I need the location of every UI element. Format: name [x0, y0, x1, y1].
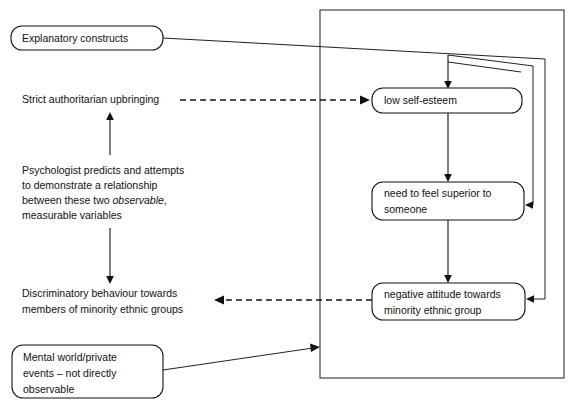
- psychology-explanatory-constructs-diagram: Explanatory constructs Strict authoritar…: [0, 0, 580, 409]
- arrowhead-need-superior-top: [444, 174, 452, 182]
- arrowhead-low-self-esteem-left: [360, 96, 370, 105]
- label-discriminatory-line-2: members of minority ethnic groups: [22, 303, 183, 315]
- arrowhead-discriminatory-behaviour: [214, 296, 224, 305]
- label-negative-attitude-line-1: negative attitude towards: [384, 288, 501, 300]
- arrowhead-discrimination-down: [106, 276, 114, 284]
- label-discriminatory-line-1: Discriminatory behaviour towards: [22, 287, 177, 299]
- label-low-self-esteem: low self-esteem: [384, 94, 457, 106]
- label-psychologist-line-3-suffix: ,: [164, 194, 167, 206]
- arrowhead-container-entry: [310, 344, 320, 353]
- label-psychologist-observable-italic: observable: [112, 194, 164, 206]
- label-psychologist-line-2: to demonstrate a relationship: [22, 179, 158, 191]
- arrowhead-negative-attitude-top: [444, 275, 452, 283]
- label-psychologist-line-3: between these two observable,: [22, 194, 167, 206]
- label-mental-world-line-3: observable: [23, 383, 75, 395]
- edge-feedback-to-negative-attitude: [530, 59, 545, 299]
- edge-mental-world-to-container: [163, 348, 313, 370]
- label-need-superior-line-1: need to feel superior to: [384, 187, 492, 199]
- arrowhead-negative-attitude-right: [526, 295, 534, 303]
- label-psychologist-line-4: measurable variables: [22, 209, 122, 221]
- diagram-canvas: Explanatory constructs Strict authoritar…: [0, 0, 580, 409]
- label-need-superior-line-2: someone: [384, 203, 427, 215]
- arrowhead-need-superior-right: [525, 201, 533, 209]
- label-psychologist-line-1: Psychologist predicts and attempts: [22, 164, 184, 176]
- label-strict-authoritarian-upbringing: Strict authoritarian upbringing: [22, 93, 159, 105]
- label-mental-world-line-1: Mental world/private: [23, 351, 117, 363]
- edge-constructs-to-mid-right: [448, 55, 533, 66]
- label-negative-attitude-line-2: minority ethnic group: [384, 304, 482, 316]
- edge-feedback-to-need-superior: [529, 66, 533, 205]
- label-psychologist-line-3-prefix: between these two: [22, 194, 112, 206]
- label-mental-world-line-2: events – not directly: [23, 367, 117, 379]
- edge-constructs-to-far-right: [163, 38, 545, 59]
- label-explanatory-constructs: Explanatory constructs: [22, 32, 128, 44]
- arrowhead-upbringing-up: [106, 112, 114, 120]
